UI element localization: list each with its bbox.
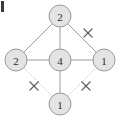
cross-icon-bottom-left [30,82,39,91]
node-label-right: 1 [101,55,107,67]
node-left[interactable]: 2 [5,49,27,71]
diagram-figure: 2 2 4 1 1 [0,0,120,121]
node-label-center: 4 [57,55,63,67]
cross-icon-top-right [84,29,93,38]
node-top[interactable]: 2 [49,5,71,27]
node-label-top: 2 [57,11,63,23]
figure-label-fragment [1,1,4,12]
cross-icon-bottom-right [82,82,91,91]
node-bottom[interactable]: 1 [49,93,71,115]
graph-canvas: 2 2 4 1 1 [0,0,120,121]
node-label-left: 2 [13,55,19,67]
node-label-bottom: 1 [57,99,63,111]
node-right[interactable]: 1 [93,49,115,71]
node-center[interactable]: 4 [49,49,71,71]
